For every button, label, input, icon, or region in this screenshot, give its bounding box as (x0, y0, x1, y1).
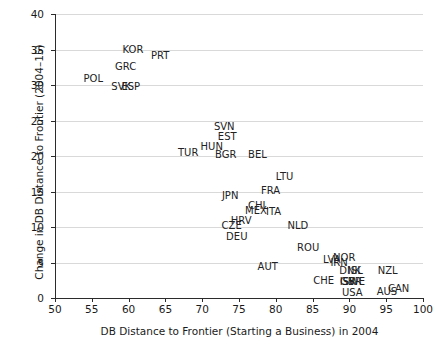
x-tick-label-65: 65 (159, 303, 172, 315)
gridline-y-20 (55, 156, 423, 157)
x-tick-70 (202, 298, 203, 302)
y-tick-label-40: 40 (0, 8, 44, 20)
y-tick-label-30: 30 (0, 79, 44, 91)
data-point-esp: ESP (121, 82, 140, 92)
x-tick-80 (276, 298, 277, 302)
data-point-nld: NLD (287, 221, 308, 231)
gridline-y-15 (55, 192, 423, 193)
data-point-nzl: NZL (378, 266, 398, 276)
data-point-ita: ITA (266, 207, 281, 217)
x-tick-55 (92, 298, 93, 302)
y-tick-label-0: 0 (0, 292, 44, 304)
y-tick-25 (51, 121, 55, 122)
data-point-fra: FRA (261, 186, 280, 196)
data-point-ltu: LTU (276, 172, 294, 182)
x-tick-label-95: 95 (380, 303, 393, 315)
y-tick-label-25: 25 (0, 115, 44, 127)
x-tick-label-70: 70 (196, 303, 209, 315)
data-point-tur: TUR (178, 148, 198, 158)
data-point-isl: ISL (348, 266, 363, 276)
data-point-deu: DEU (226, 232, 247, 242)
data-point-pol: POL (84, 74, 103, 84)
x-tick-label-60: 60 (122, 303, 135, 315)
data-point-aut: AUT (258, 262, 278, 272)
scatter-chart: DB Distance to Frontier (Starting a Busi… (0, 0, 446, 355)
data-point-gbr: GBR (340, 277, 362, 287)
y-tick-label-35: 35 (0, 44, 44, 56)
y-tick-label-10: 10 (0, 221, 44, 233)
y-tick-5 (51, 263, 55, 264)
x-tick-60 (129, 298, 130, 302)
y-tick-20 (51, 156, 55, 157)
x-tick-label-90: 90 (343, 303, 356, 315)
x-tick-95 (386, 298, 387, 302)
gridline-y-30 (55, 85, 423, 86)
data-point-est: EST (218, 132, 237, 142)
x-tick-label-80: 80 (269, 303, 282, 315)
x-tick-85 (313, 298, 314, 302)
data-point-grc: GRC (115, 62, 136, 72)
y-tick-label-15: 15 (0, 186, 44, 198)
y-axis-line (55, 14, 56, 299)
y-tick-30 (51, 85, 55, 86)
gridline-y-5 (55, 263, 423, 264)
y-axis-title: Change in DB Distance to Frontier (2004–… (33, 37, 45, 287)
data-point-jpn: JPN (222, 191, 238, 201)
gridline-y-35 (55, 50, 423, 51)
x-tick-label-50: 50 (48, 303, 61, 315)
gridline-y-25 (55, 121, 423, 122)
data-point-prt: PRT (151, 51, 169, 61)
data-point-can: CAN (388, 284, 409, 294)
gridline-y-40 (55, 14, 423, 15)
data-point-bel: BEL (248, 150, 267, 160)
y-tick-label-5: 5 (0, 257, 44, 269)
x-tick-label-85: 85 (306, 303, 319, 315)
data-point-kor: KOR (123, 45, 144, 55)
plot-area (55, 14, 423, 298)
y-tick-10 (51, 227, 55, 228)
data-point-rou: ROU (297, 243, 319, 253)
data-point-bgr: BGR (215, 150, 236, 160)
y-tick-label-20: 20 (0, 150, 44, 162)
y-tick-40 (51, 14, 55, 15)
x-tick-75 (239, 298, 240, 302)
data-point-che: CHE (313, 276, 334, 286)
x-tick-50 (55, 298, 56, 302)
data-point-usa: USA (342, 288, 363, 298)
y-tick-15 (51, 192, 55, 193)
x-tick-label-55: 55 (85, 303, 98, 315)
data-point-mex: MEX (245, 206, 267, 216)
x-tick-100 (423, 298, 424, 302)
x-tick-label-75: 75 (232, 303, 245, 315)
data-point-cze: CZE (222, 221, 242, 231)
x-tick-65 (165, 298, 166, 302)
x-tick-90 (349, 298, 350, 302)
y-tick-0 (51, 298, 55, 299)
x-tick-label-100: 100 (413, 303, 433, 315)
x-axis-title: DB Distance to Frontier (Starting a Busi… (55, 325, 424, 337)
y-tick-35 (51, 50, 55, 51)
